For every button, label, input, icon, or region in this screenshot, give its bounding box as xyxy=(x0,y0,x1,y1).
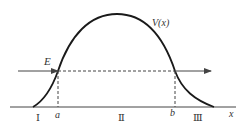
region-3-label: Ⅲ xyxy=(193,112,203,123)
energy-label: E xyxy=(43,55,51,67)
potential-barrier-diagram: E V(x) Ⅰ a Ⅱ b Ⅲ x xyxy=(0,0,246,138)
region-2-label: Ⅱ xyxy=(118,112,125,123)
potential-label: V(x) xyxy=(152,17,170,29)
point-a-label: a xyxy=(55,109,60,120)
point-b-label: b xyxy=(170,107,175,118)
x-axis-label: x xyxy=(228,108,234,119)
region-1-label: Ⅰ xyxy=(36,112,40,123)
potential-curve xyxy=(33,14,214,107)
